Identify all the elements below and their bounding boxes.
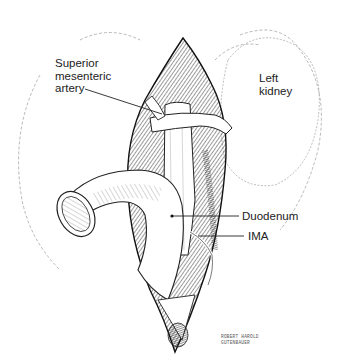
artist-signature: ROBERT HAROLD GUTENBAUER <box>221 334 259 345</box>
left-kidney-outline <box>221 38 320 186</box>
duodenum-leader-dot <box>170 214 173 217</box>
label-superior-mesenteric-artery: Superior mesenteric artery <box>55 57 111 95</box>
label-duodenum: Duodenum <box>242 210 298 223</box>
label-left-kidney: Left kidney <box>259 72 292 97</box>
label-ima: IMA <box>248 230 268 243</box>
anatomy-figure: Superior mesenteric artery Left kidney D… <box>0 0 338 361</box>
illustration-drawing <box>0 0 338 361</box>
